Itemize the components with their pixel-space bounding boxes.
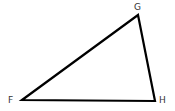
vertex-label-h: H — [159, 95, 166, 105]
vertex-label-g: G — [134, 2, 141, 12]
vertex-label-f: F — [8, 95, 13, 105]
triangle-fgh — [22, 15, 155, 101]
triangle-diagram: F G H — [0, 0, 175, 111]
